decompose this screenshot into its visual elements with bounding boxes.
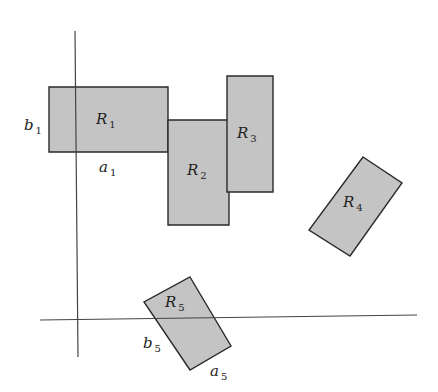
rectangles-diagram: R1R2R3R4R5b1a1b5a5 — [0, 0, 438, 392]
horizontal-axis — [40, 315, 417, 320]
dimension-label-a5: a5 — [210, 362, 227, 382]
rectangle-r5 — [144, 277, 231, 370]
rectangle-r2 — [168, 120, 229, 225]
dimension-label-a1: a1 — [99, 158, 116, 178]
dimension-label-b5: b5 — [143, 334, 161, 354]
vertical-axis — [75, 31, 78, 357]
dimension-label-b1: b1 — [24, 116, 42, 136]
